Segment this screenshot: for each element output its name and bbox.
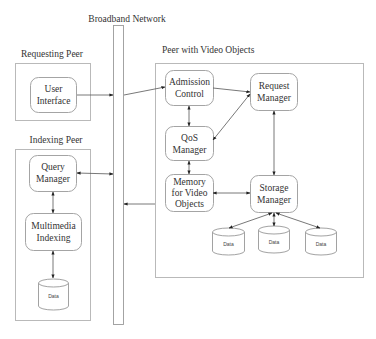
edge-admission-request (213, 88, 250, 92)
storage-manager-line1: Storage (259, 183, 288, 193)
edge-storage-data3 (276, 213, 320, 228)
data-label-2: Data (269, 239, 280, 245)
request-manager-line2: Manager (257, 93, 292, 103)
p2p-video-architecture-diagram: Broadband Network Requesting Peer User I… (0, 0, 376, 339)
request-manager-node: Request Manager (251, 74, 298, 111)
video-peer-label: Peer with Video Objects (162, 45, 255, 55)
edge-qos-request (213, 94, 250, 140)
memory-line3: Objects (175, 199, 204, 209)
memory-video-objects-node: Memory for Video Objects (166, 175, 214, 212)
multimedia-indexing-node: Multimedia Indexing (26, 214, 82, 251)
user-interface-line1: User (45, 84, 64, 94)
user-interface-node: User Interface (31, 78, 77, 113)
data-cylinder-icon-3: Data (306, 228, 337, 255)
storage-manager-line2: Manager (257, 195, 292, 205)
data-label-3: Data (316, 241, 327, 247)
qos-manager-line2: Manager (173, 145, 208, 155)
request-manager-line1: Request (259, 81, 290, 91)
qos-manager-node: QoS Manager (166, 127, 214, 161)
data-cylinder-icon-1: Data (213, 228, 245, 255)
data-cylinder-icon-2: Data (259, 226, 290, 253)
broadband-network-bar (114, 26, 124, 325)
admission-control-line2: Control (175, 89, 204, 99)
qos-manager-line1: QoS (181, 133, 198, 143)
query-manager-line1: Query (41, 162, 65, 172)
memory-line1: Memory (173, 177, 206, 187)
query-manager-line2: Manager (36, 174, 71, 184)
admission-control-line1: Admission (169, 77, 210, 87)
edge-query-network (77, 173, 113, 174)
multimedia-indexing-line1: Multimedia (31, 221, 76, 231)
index-data-label: Data (48, 293, 59, 299)
network-label: Broadband Network (88, 14, 166, 24)
memory-line2: for Video (172, 188, 208, 198)
query-manager-node: Query Manager (30, 156, 77, 192)
index-data-cylinder-icon: Data (39, 279, 69, 310)
user-interface-line2: Interface (37, 96, 71, 106)
edge-storage-data1 (229, 213, 272, 228)
requesting-peer-label: Requesting Peer (21, 49, 84, 59)
indexing-peer-label: Indexing Peer (29, 135, 83, 145)
multimedia-indexing-line2: Indexing (37, 233, 71, 243)
data-label-1: Data (223, 241, 234, 247)
storage-manager-node: Storage Manager (251, 176, 298, 213)
admission-control-node: Admission Control (166, 71, 214, 106)
edge-network-to-admission (124, 87, 165, 95)
